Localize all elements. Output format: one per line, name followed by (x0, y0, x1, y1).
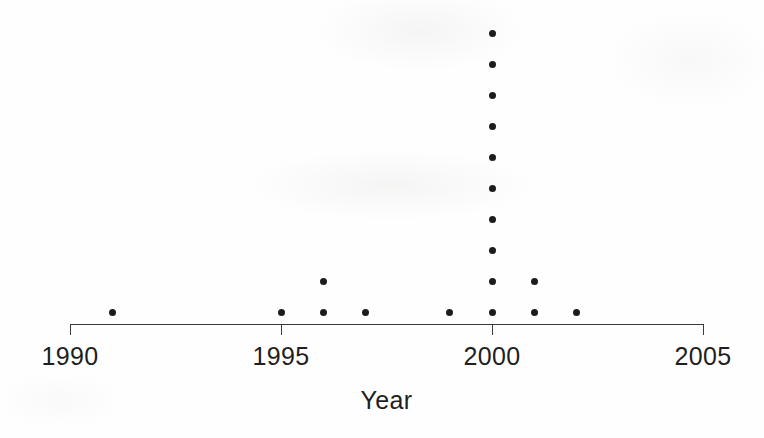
data-dot (489, 61, 496, 68)
data-dot (489, 30, 496, 37)
x-axis-tick-label-1990: 1990 (41, 342, 98, 371)
data-dot (446, 309, 453, 316)
data-dot (489, 278, 496, 285)
data-dot (489, 309, 496, 316)
data-dot (278, 309, 285, 316)
data-dot (573, 309, 580, 316)
data-dot (531, 278, 538, 285)
x-axis-tick-label-1995: 1995 (252, 342, 309, 371)
data-dot (489, 123, 496, 130)
data-dot (489, 185, 496, 192)
dot-plot-figure: 1990199520002005 Year (0, 0, 764, 438)
data-dot (489, 92, 496, 99)
x-axis-line (70, 324, 703, 325)
x-axis-tick-2005 (703, 324, 704, 335)
x-axis-tick-1995 (281, 324, 282, 335)
data-dot (531, 309, 538, 316)
data-dot (362, 309, 369, 316)
data-dot (320, 278, 327, 285)
x-axis-tick-label-2005: 2005 (674, 342, 731, 371)
data-dot (489, 154, 496, 161)
data-dot (489, 216, 496, 223)
x-axis-tick-1990 (70, 324, 71, 335)
data-dot (489, 247, 496, 254)
data-dot (109, 309, 116, 316)
plot-area (0, 0, 764, 438)
x-axis-tick-2000 (492, 324, 493, 335)
x-axis-tick-label-2000: 2000 (463, 342, 520, 371)
data-dot (320, 309, 327, 316)
x-axis-title: Year (360, 386, 412, 415)
